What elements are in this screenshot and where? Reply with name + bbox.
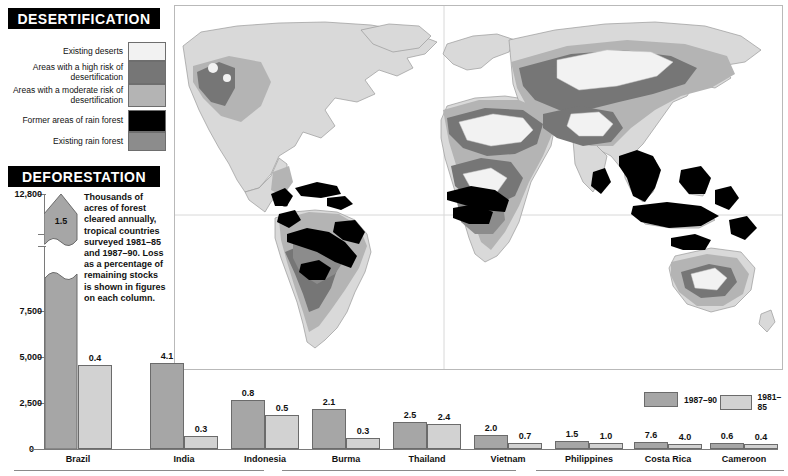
bottom-rule-left: [14, 470, 264, 471]
desertification-legend: Existing deserts Areas with a high risk …: [6, 42, 166, 154]
bar-vietnam-1981-85: [508, 443, 542, 449]
deforestation-title-banner: DEFORESTATION: [8, 166, 160, 187]
infographic-root: DESERTIFICATION Existing deserts Areas w…: [0, 0, 788, 476]
swatch-existing-rainforest: [128, 132, 166, 151]
bar-thailand-1987-90: [393, 422, 427, 449]
bar-label-cameroon-1981-85: 0.4: [744, 432, 778, 442]
ytick-label-12800: 12,800: [0, 189, 42, 199]
legend-label-existing-deserts: Existing deserts: [11, 47, 128, 57]
bar-label-indonesia-1981-85: 0.5: [265, 403, 299, 413]
ytick-label-5000: 5,000: [0, 352, 42, 362]
bar-costa-rica-1981-85: [668, 444, 702, 449]
chart-legend-swatch-1981-85: [720, 395, 752, 410]
legend-label-existing-rainforest: Existing rain forest: [11, 137, 128, 147]
bar-cameroon-1987-90: [710, 443, 744, 449]
legend-label-former-rainforest: Former areas of rain forest: [11, 116, 128, 126]
bar-indonesia-1981-85: [265, 415, 299, 449]
category-label-brazil: Brazil: [44, 454, 112, 464]
bar-label-brazil-1987-90: 1.5: [44, 216, 78, 226]
category-label-burma: Burma: [312, 454, 380, 464]
chart-caption: Thousands of acres of forest cleared ann…: [84, 192, 168, 304]
bar-india-1981-85: [184, 436, 218, 449]
bar-label-brazil-1981-85: 0.4: [78, 353, 112, 363]
legend-row-moderate-risk: Areas with a moderate risk of desertific…: [6, 84, 166, 107]
swatch-high-risk: [128, 61, 166, 84]
category-label-indonesia: Indonesia: [231, 454, 299, 464]
bar-philippines-1987-90: [555, 441, 589, 449]
chart-legend-label-1981-85: 1981–85: [758, 392, 788, 412]
bar-thailand-1981-85: [427, 424, 461, 449]
legend-label-high-risk: Areas with a high risk of desertificatio…: [11, 63, 128, 82]
bottom-rule-right: [536, 470, 784, 471]
swatch-existing-deserts: [128, 42, 166, 61]
bar-label-philippines-1981-85: 1.0: [589, 431, 623, 441]
deforestation-chart: 12,800 7,500 5,000 2,500 0 1.5 Thousands…: [0, 188, 788, 476]
desertification-title-banner: DESERTIFICATION: [8, 8, 160, 29]
bar-indonesia-1987-90: [231, 400, 265, 449]
bar-label-costa-rica-1987-90: 7.6: [634, 430, 668, 440]
chart-legend-label-1987-90: 1987–90: [684, 395, 717, 405]
bottom-rule-center: [282, 470, 516, 471]
bar-label-india-1987-90: 4.1: [150, 351, 184, 361]
legend-row-existing-deserts: Existing deserts: [6, 42, 166, 61]
bar-label-vietnam-1987-90: 2.0: [474, 423, 508, 433]
bar-label-burma-1981-85: 0.3: [346, 426, 380, 436]
bar-burma-1981-85: [346, 438, 380, 449]
x-axis-baseline: [30, 449, 778, 450]
legend-row-existing-rainforest: Existing rain forest: [6, 132, 166, 151]
chart-legend-item-1987-90: 1987–90: [644, 392, 717, 407]
legend-row-former-rainforest: Former areas of rain forest: [6, 110, 166, 132]
swatch-former-rainforest: [128, 110, 166, 132]
legend-row-high-risk: Areas with a high risk of desertificatio…: [6, 61, 166, 84]
category-label-vietnam: Vietnam: [474, 454, 542, 464]
legend-label-moderate-risk: Areas with a moderate risk of desertific…: [11, 86, 128, 105]
ytick-label-0: 0: [0, 444, 34, 454]
bar-vietnam-1987-90: [474, 435, 508, 449]
chart-legend: 1987–90 1981–85: [644, 392, 788, 412]
bar-burma-1987-90: [312, 409, 346, 449]
ytick-label-7500: 7,500: [0, 306, 42, 316]
ytick-label-2500: 2,500: [0, 398, 42, 408]
bar-brazil-1987-90-bottom: [44, 266, 78, 449]
bar-label-indonesia-1987-90: 0.8: [231, 388, 265, 398]
bar-label-philippines-1987-90: 1.5: [555, 429, 589, 439]
bar-label-india-1981-85: 0.3: [184, 424, 218, 434]
bar-cameroon-1981-85: [744, 444, 778, 449]
bar-label-thailand-1981-85: 2.4: [427, 412, 461, 422]
bar-label-thailand-1987-90: 2.5: [393, 410, 427, 420]
chart-legend-item-1981-85: 1981–85: [720, 392, 788, 412]
bar-india-1987-90: [150, 363, 184, 449]
desertification-title: DESERTIFICATION: [17, 11, 150, 27]
category-label-thailand: Thailand: [393, 454, 461, 464]
bar-label-cameroon-1987-90: 0.6: [710, 431, 744, 441]
bar-philippines-1981-85: [589, 443, 623, 449]
category-label-costa-rica: Costa Rica: [634, 454, 702, 464]
bar-label-vietnam-1981-85: 0.7: [508, 431, 542, 441]
bar-label-burma-1987-90: 2.1: [312, 397, 346, 407]
chart-legend-swatch-1987-90: [644, 392, 678, 407]
bar-label-costa-rica-1981-85: 4.0: [668, 432, 702, 442]
bar-brazil-1981-85: [78, 365, 112, 449]
bar-costa-rica-1987-90: [634, 442, 668, 449]
deforestation-title: DEFORESTATION: [22, 169, 146, 185]
category-label-cameroon: Cameroon: [710, 454, 778, 464]
category-label-india: India: [150, 454, 218, 464]
category-label-philippines: Philippines: [555, 454, 623, 464]
swatch-moderate-risk: [128, 84, 166, 107]
